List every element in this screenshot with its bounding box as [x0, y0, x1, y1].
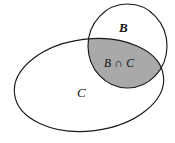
venn-diagram-canvas	[0, 0, 175, 143]
set-b-label: B	[119, 21, 128, 34]
intersection-b-and-c-label: B ∩ C	[104, 58, 134, 70]
set-c-label: C	[77, 86, 86, 99]
venn-diagram-figure: B B ∩ C C	[0, 0, 175, 143]
